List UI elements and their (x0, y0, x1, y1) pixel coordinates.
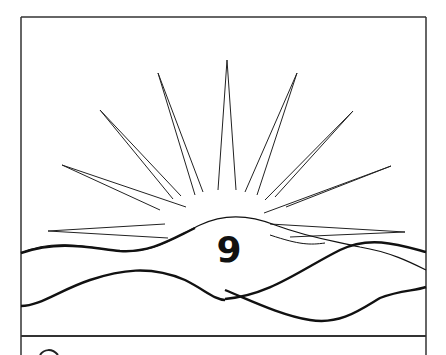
sun-rays-icon (48, 60, 405, 238)
frame (21, 17, 426, 355)
number-label: 9 (216, 229, 241, 270)
partial-circle-decoration (40, 350, 58, 355)
sunrise-illustration: 9 (0, 0, 446, 355)
